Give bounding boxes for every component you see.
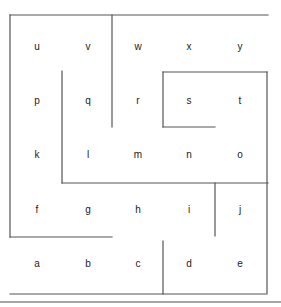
cell-c: c — [136, 258, 141, 269]
cell-k: k — [35, 149, 41, 160]
cell-m: m — [134, 149, 142, 160]
cell-n: n — [186, 149, 192, 160]
cell-u: u — [34, 41, 40, 52]
cell-r: r — [136, 95, 140, 106]
cell-l: l — [87, 149, 89, 160]
cell-s: s — [187, 95, 192, 106]
maze-diagram: u v w x y p q r s t k l m n o f g h i j … — [0, 0, 281, 307]
cell-e: e — [237, 258, 243, 269]
cell-x: x — [187, 41, 192, 52]
cell-q: q — [85, 95, 91, 106]
cell-j: j — [238, 204, 241, 215]
cell-w: w — [133, 41, 142, 52]
cell-o: o — [237, 149, 243, 160]
cell-f: f — [36, 204, 39, 215]
cell-p: p — [34, 95, 40, 106]
cell-b: b — [85, 258, 91, 269]
cell-d: d — [186, 258, 192, 269]
cell-h: h — [135, 204, 141, 215]
cell-y: y — [238, 41, 243, 52]
cell-v: v — [86, 41, 91, 52]
cell-i: i — [188, 204, 190, 215]
cell-g: g — [85, 204, 91, 215]
cell-a: a — [34, 258, 40, 269]
cell-t: t — [239, 95, 242, 106]
cell-labels: u v w x y p q r s t k l m n o f g h i j … — [34, 41, 243, 269]
